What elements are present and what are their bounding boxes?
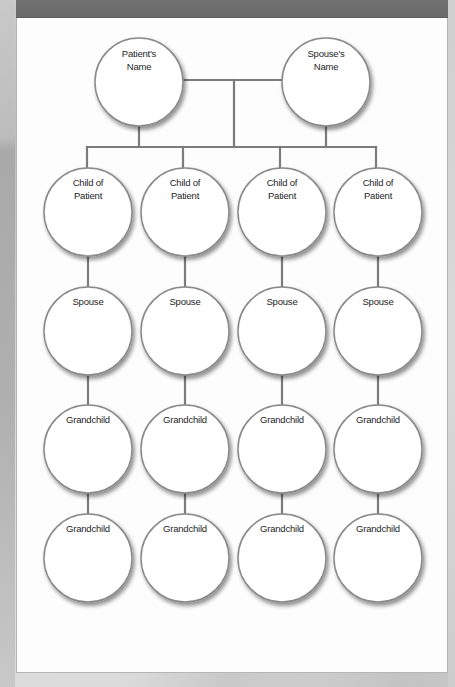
child-2-child-node-1-label-line: Patient (171, 190, 200, 201)
child-3-grandchild-node-4[interactable]: Grandchild (238, 514, 326, 602)
child-1-grandchild-node-4-label-line: Grandchild (66, 523, 110, 534)
child-2-grandchild-node-3-label-line: Grandchild (163, 414, 207, 425)
child-2-child-node-1[interactable]: Child ofPatient (141, 168, 229, 256)
child-4-spouse-node-2-label: Spouse (362, 296, 393, 307)
child-1-grandchild-node-3[interactable]: Grandchild (44, 405, 132, 493)
child-2-spouse-node-2[interactable]: Spouse (141, 287, 229, 375)
child-1-grandchild-node-4-label: Grandchild (66, 523, 110, 534)
child-2-child-node-1-label: Child ofPatient (170, 177, 201, 201)
child-2-grandchild-node-4[interactable]: Grandchild (141, 514, 229, 602)
child-4-spouse-node-2[interactable]: Spouse (334, 287, 422, 375)
child-4-grandchild-node-4-label: Grandchild (356, 523, 400, 534)
child-4-child-node-1-label-line: Patient (364, 190, 393, 201)
child-1-grandchild-node-3-label: Grandchild (66, 414, 110, 425)
spouse-node[interactable]: Spouse'sName (282, 38, 370, 126)
patient-node[interactable]: Patient'sName (95, 38, 183, 126)
child-1-child-node-1[interactable]: Child ofPatient (44, 168, 132, 256)
spouse-node-label-line: Spouse's (307, 48, 345, 59)
family-tree-diagram: Patient'sNameSpouse'sNameChild ofPatient… (0, 0, 455, 687)
child-3-grandchild-node-4-label: Grandchild (260, 523, 304, 534)
child-3-grandchild-node-3-label-line: Grandchild (260, 414, 304, 425)
child-3-grandchild-node-3[interactable]: Grandchild (238, 405, 326, 493)
child-3-spouse-node-2-label: Spouse (266, 296, 297, 307)
child-1-grandchild-node-4[interactable]: Grandchild (44, 514, 132, 602)
child-2-grandchild-node-3[interactable]: Grandchild (141, 405, 229, 493)
child-1-child-node-1-label: Child ofPatient (73, 177, 104, 201)
child-1-child-node-1-label-line: Child of (73, 177, 104, 188)
child-4-child-node-1-label-line: Child of (363, 177, 394, 188)
patient-node-label-line: Name (127, 61, 152, 72)
patient-node-label-line: Patient's (122, 48, 157, 59)
child-4-child-node-1-label: Child ofPatient (363, 177, 394, 201)
child-1-spouse-node-2[interactable]: Spouse (44, 287, 132, 375)
child-4-spouse-node-2-label-line: Spouse (362, 296, 393, 307)
spouse-node-label-line: Name (314, 61, 339, 72)
child-3-child-node-1-label: Child ofPatient (267, 177, 298, 201)
child-3-child-node-1[interactable]: Child ofPatient (238, 168, 326, 256)
child-1-spouse-node-2-label-line: Spouse (72, 296, 103, 307)
child-1-spouse-node-2-label: Spouse (72, 296, 103, 307)
child-3-spouse-node-2-label-line: Spouse (266, 296, 297, 307)
child-4-grandchild-node-3-label: Grandchild (356, 414, 400, 425)
child-2-grandchild-node-4-label: Grandchild (163, 523, 207, 534)
child-4-grandchild-node-3[interactable]: Grandchild (334, 405, 422, 493)
child-2-spouse-node-2-label-line: Spouse (169, 296, 200, 307)
child-3-child-node-1-label-line: Child of (267, 177, 298, 188)
child-1-child-node-1-label-line: Patient (74, 190, 103, 201)
child-3-child-node-1-label-line: Patient (268, 190, 297, 201)
child-2-spouse-node-2-label: Spouse (169, 296, 200, 307)
child-4-child-node-1[interactable]: Child ofPatient (334, 168, 422, 256)
child-3-grandchild-node-4-label-line: Grandchild (260, 523, 304, 534)
child-4-grandchild-node-3-label-line: Grandchild (356, 414, 400, 425)
child-3-spouse-node-2[interactable]: Spouse (238, 287, 326, 375)
child-3-grandchild-node-3-label: Grandchild (260, 414, 304, 425)
child-2-child-node-1-label-line: Child of (170, 177, 201, 188)
child-2-grandchild-node-4-label-line: Grandchild (163, 523, 207, 534)
child-4-grandchild-node-4-label-line: Grandchild (356, 523, 400, 534)
child-4-grandchild-node-4[interactable]: Grandchild (334, 514, 422, 602)
child-1-grandchild-node-3-label-line: Grandchild (66, 414, 110, 425)
child-2-grandchild-node-3-label: Grandchild (163, 414, 207, 425)
